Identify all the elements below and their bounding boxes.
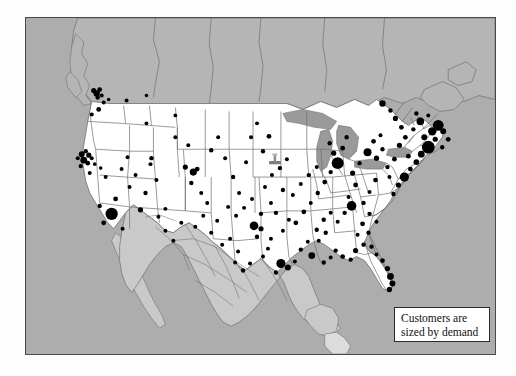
customer-dot[interactable] bbox=[276, 259, 285, 268]
customer-dot[interactable] bbox=[328, 141, 332, 145]
customer-dot[interactable] bbox=[113, 197, 118, 202]
customer-dot[interactable] bbox=[97, 204, 101, 208]
customer-dot[interactable] bbox=[329, 170, 333, 174]
customer-dot[interactable] bbox=[329, 211, 333, 215]
customer-dot[interactable] bbox=[285, 265, 291, 271]
customer-dot[interactable] bbox=[237, 191, 241, 195]
customer-dot[interactable] bbox=[281, 188, 285, 192]
customer-dot[interactable] bbox=[322, 180, 327, 185]
customer-dot[interactable] bbox=[97, 87, 102, 92]
customer-dot[interactable] bbox=[278, 166, 282, 170]
customer-dot[interactable] bbox=[347, 201, 357, 211]
customer-dot[interactable] bbox=[220, 243, 224, 247]
customer-dot[interactable] bbox=[433, 137, 438, 142]
customer-dot[interactable] bbox=[316, 191, 320, 195]
customer-dot[interactable] bbox=[421, 134, 427, 140]
customer-dot[interactable] bbox=[269, 201, 273, 205]
customer-dot[interactable] bbox=[234, 214, 238, 218]
customer-dot[interactable] bbox=[408, 167, 413, 172]
customer-dot[interactable] bbox=[307, 173, 311, 177]
customer-dot[interactable] bbox=[293, 220, 298, 225]
customer-dot[interactable] bbox=[301, 209, 306, 214]
customer-dot[interactable] bbox=[249, 135, 253, 139]
customer-dot[interactable] bbox=[96, 95, 100, 99]
customer-dot[interactable] bbox=[267, 134, 272, 139]
customer-dot[interactable] bbox=[250, 221, 259, 230]
customer-dot[interactable] bbox=[96, 107, 101, 112]
customer-dot[interactable] bbox=[228, 237, 232, 241]
customer-dot[interactable] bbox=[317, 239, 321, 243]
customer-dot[interactable] bbox=[263, 185, 267, 189]
customer-dot[interactable] bbox=[134, 173, 138, 177]
customer-dot[interactable] bbox=[231, 175, 235, 179]
customer-dot[interactable] bbox=[242, 206, 246, 210]
customer-dot[interactable] bbox=[126, 155, 130, 159]
customer-dot[interactable] bbox=[364, 148, 372, 156]
customer-dot[interactable] bbox=[340, 254, 345, 259]
customer-dot[interactable] bbox=[233, 261, 237, 265]
customer-dot[interactable] bbox=[121, 227, 125, 231]
customer-dot[interactable] bbox=[236, 250, 240, 254]
customer-dot[interactable] bbox=[368, 190, 372, 194]
customer-dot[interactable] bbox=[342, 211, 346, 215]
customer-dot[interactable] bbox=[357, 161, 361, 165]
customer-dot[interactable] bbox=[380, 147, 384, 151]
customer-dot[interactable] bbox=[417, 118, 425, 126]
customer-dot[interactable] bbox=[332, 157, 344, 169]
customer-dot[interactable] bbox=[216, 135, 220, 139]
customer-dot[interactable] bbox=[90, 112, 94, 116]
customer-dot[interactable] bbox=[179, 221, 183, 225]
customer-dot[interactable] bbox=[145, 121, 149, 125]
customer-dot[interactable] bbox=[163, 207, 167, 211]
customer-dot[interactable] bbox=[422, 141, 435, 154]
customer-dot[interactable] bbox=[266, 247, 270, 251]
customer-dot[interactable] bbox=[411, 127, 415, 131]
customer-dot[interactable] bbox=[348, 257, 352, 261]
customer-dot[interactable] bbox=[281, 229, 285, 233]
customer-dot[interactable] bbox=[336, 220, 340, 224]
customer-dot[interactable] bbox=[350, 170, 355, 175]
customer-dot[interactable] bbox=[371, 139, 376, 144]
customer-dot[interactable] bbox=[315, 165, 319, 169]
customer-dot[interactable] bbox=[389, 280, 395, 286]
customer-dot[interactable] bbox=[255, 235, 259, 239]
customer-dot[interactable] bbox=[344, 135, 348, 139]
customer-dot[interactable] bbox=[361, 201, 365, 205]
customer-dot[interactable] bbox=[385, 266, 390, 271]
customer-dot[interactable] bbox=[209, 231, 213, 235]
customer-dot[interactable] bbox=[250, 197, 254, 201]
customer-dot[interactable] bbox=[353, 248, 358, 253]
customer-dot[interactable] bbox=[291, 193, 295, 197]
customer-dot[interactable] bbox=[90, 156, 94, 160]
customer-dot[interactable] bbox=[270, 173, 274, 177]
customer-dot[interactable] bbox=[223, 156, 227, 160]
customer-dot[interactable] bbox=[440, 128, 446, 134]
customer-dot[interactable] bbox=[186, 143, 190, 147]
customer-dot[interactable] bbox=[406, 154, 411, 159]
customer-dot[interactable] bbox=[226, 205, 230, 209]
customer-dot[interactable] bbox=[340, 146, 345, 151]
customer-dot[interactable] bbox=[403, 135, 408, 140]
customer-dot[interactable] bbox=[299, 182, 303, 186]
customer-dot[interactable] bbox=[88, 171, 92, 175]
customer-dot[interactable] bbox=[189, 181, 193, 185]
customer-dot[interactable] bbox=[128, 185, 132, 189]
customer-dot[interactable] bbox=[156, 215, 160, 219]
customer-dot[interactable] bbox=[84, 149, 88, 153]
customer-dot[interactable] bbox=[201, 214, 205, 218]
customer-dot[interactable] bbox=[287, 218, 291, 222]
customer-dot[interactable] bbox=[309, 201, 313, 205]
customer-dot[interactable] bbox=[315, 228, 319, 232]
customer-dot[interactable] bbox=[426, 113, 430, 117]
customer-dot[interactable] bbox=[101, 220, 106, 225]
customer-dot[interactable] bbox=[333, 248, 337, 252]
customer-dot[interactable] bbox=[241, 268, 245, 272]
customer-dot[interactable] bbox=[397, 143, 402, 148]
customer-dot[interactable] bbox=[446, 137, 451, 142]
customer-dot[interactable] bbox=[392, 157, 397, 162]
customer-dot[interactable] bbox=[173, 135, 177, 139]
customer-dot[interactable] bbox=[173, 114, 177, 118]
customer-dot[interactable] bbox=[308, 252, 315, 259]
customer-dot[interactable] bbox=[374, 156, 379, 161]
customer-dot[interactable] bbox=[373, 178, 378, 183]
